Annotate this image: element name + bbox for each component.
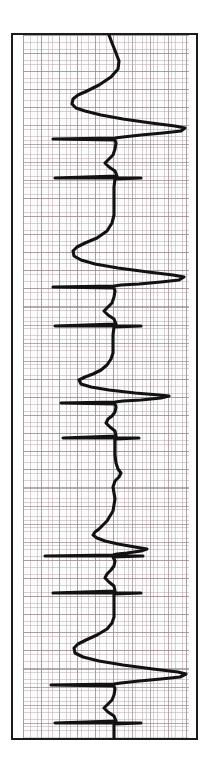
ecg-chart-frame xyxy=(11,33,198,740)
ecg-paper-background xyxy=(13,35,196,738)
ecg-graph-paper-grid xyxy=(23,35,189,738)
ecg-strip-page xyxy=(0,0,210,768)
